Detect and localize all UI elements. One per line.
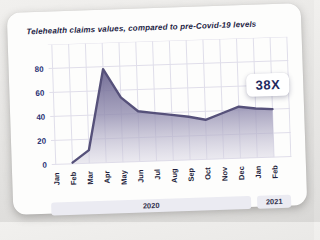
svg-text:60: 60 <box>35 89 45 98</box>
svg-text:Feb: Feb <box>270 165 279 179</box>
telehealth-area-chart: 020406080JanFebMarAprMayJunJulAugSepOctN… <box>22 37 293 198</box>
svg-text:Jun: Jun <box>136 169 145 183</box>
year-band-2021-label: 2021 <box>266 197 283 207</box>
year-band-2021: 2021 <box>257 195 291 209</box>
svg-text:Aug: Aug <box>170 168 179 183</box>
svg-text:Jul: Jul <box>153 169 162 180</box>
svg-text:Feb: Feb <box>69 171 78 185</box>
chart-title: Telehealth claims values, compared to pr… <box>26 19 287 37</box>
svg-text:40: 40 <box>36 113 46 122</box>
page-background: { "page": { "background_top": "#f1f0ee",… <box>0 0 314 222</box>
svg-text:Apr: Apr <box>102 170 111 183</box>
svg-text:Jan: Jan <box>254 165 263 179</box>
svg-text:Jan: Jan <box>52 172 61 186</box>
year-bands: 2020 2021 <box>51 195 291 216</box>
year-band-2020: 2020 <box>51 196 251 216</box>
svg-text:Mar: Mar <box>86 171 95 185</box>
svg-text:Dec: Dec <box>237 166 246 180</box>
svg-text:20: 20 <box>37 137 47 146</box>
svg-text:80: 80 <box>35 65 45 74</box>
svg-text:0: 0 <box>42 161 47 170</box>
chart-area: 020406080JanFebMarAprMayJunJulAugSepOctN… <box>22 37 294 217</box>
svg-text:Oct: Oct <box>203 167 212 180</box>
year-band-2020-label: 2020 <box>143 201 160 211</box>
multiplier-badge-label: 38X <box>255 77 280 93</box>
svg-text:Nov: Nov <box>220 166 229 181</box>
multiplier-badge: 38X <box>246 73 289 97</box>
svg-text:May: May <box>119 169 129 185</box>
svg-text:Sep: Sep <box>186 167 195 181</box>
telehealth-card: Telehealth claims values, compared to pr… <box>7 3 308 215</box>
